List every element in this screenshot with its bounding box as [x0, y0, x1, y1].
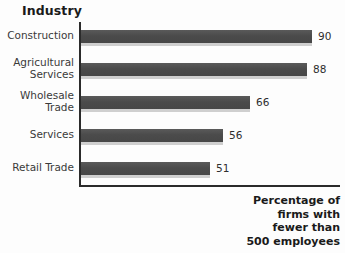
category-label: Construction — [0, 30, 74, 42]
bar-row: Wholesale Trade 66 — [0, 96, 345, 128]
plot-area: Construction 90 Agricultural Services 88… — [0, 22, 345, 185]
bar — [81, 30, 312, 46]
bar — [81, 162, 210, 178]
bar-row: Retail Trade 51 — [0, 162, 345, 194]
bar-value-label: 90 — [318, 30, 331, 43]
category-label: Services — [0, 129, 74, 141]
bar — [81, 129, 223, 145]
bar-shadow — [81, 76, 307, 79]
bar-shadow — [81, 109, 250, 112]
bar-shadow — [81, 175, 210, 178]
bar — [81, 96, 250, 112]
x-axis-caption: Percentage of firms with fewer than 500 … — [180, 194, 340, 248]
chart-title: Industry — [22, 3, 82, 18]
bar-value-label: 51 — [216, 162, 229, 175]
category-label: Wholesale Trade — [0, 90, 74, 113]
bar-value-label: 66 — [256, 96, 269, 109]
bar-shadow — [81, 43, 312, 46]
category-label: Retail Trade — [0, 162, 74, 174]
bar-fill — [81, 162, 210, 175]
bar-value-label: 88 — [313, 63, 326, 76]
bar-value-label: 56 — [229, 129, 242, 142]
bar-fill — [81, 96, 250, 109]
bar — [81, 63, 307, 79]
bar-fill — [81, 30, 312, 43]
bar-shadow — [81, 142, 223, 145]
category-label: Agricultural Services — [0, 57, 74, 80]
bar-fill — [81, 129, 223, 142]
bar-row: Services 56 — [0, 129, 345, 161]
bar-chart: Industry Construction 90 Agricultural Se… — [0, 0, 345, 253]
bar-fill — [81, 63, 307, 76]
